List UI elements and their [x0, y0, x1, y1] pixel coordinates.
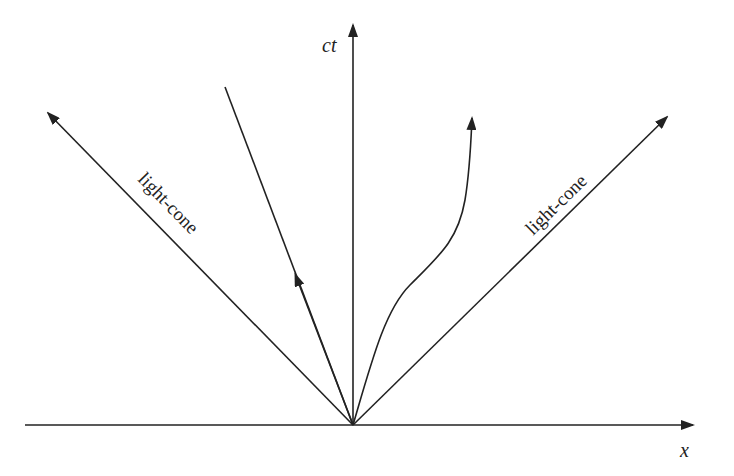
left-light-cone-label: light-cone [134, 168, 203, 238]
straight-worldline-arrow-icon [297, 279, 353, 425]
spacetime-diagram: x ct light-cone light-cone [0, 0, 734, 476]
left-light-cone: light-cone [48, 113, 353, 425]
ct-axis-label: ct [322, 34, 337, 56]
left-light-cone-line [48, 113, 353, 425]
right-light-cone-line [353, 117, 667, 425]
right-light-cone: light-cone [353, 117, 667, 425]
ct-axis: ct [322, 25, 353, 425]
curved-worldline [353, 118, 472, 425]
x-axis-label: x [679, 439, 689, 461]
right-light-cone-label: light-cone [521, 170, 591, 239]
curved-worldline-path [353, 118, 472, 425]
x-axis: x [25, 425, 693, 461]
straight-worldline [225, 87, 353, 425]
